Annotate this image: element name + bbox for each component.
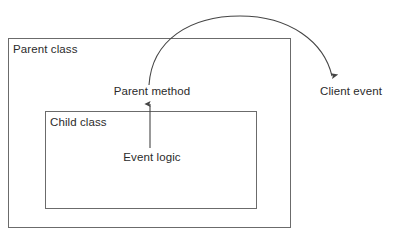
diagram-canvas: Parent class Child class Parent method E…: [0, 0, 401, 240]
connector-parent-method-to-client-event: [149, 16, 332, 85]
client-event-label: Client event: [320, 85, 382, 98]
parent-class-label: Parent class: [13, 43, 77, 56]
parent-method-label: Parent method: [114, 85, 191, 98]
child-class-label: Child class: [50, 116, 107, 129]
event-logic-label: Event logic: [123, 151, 180, 164]
